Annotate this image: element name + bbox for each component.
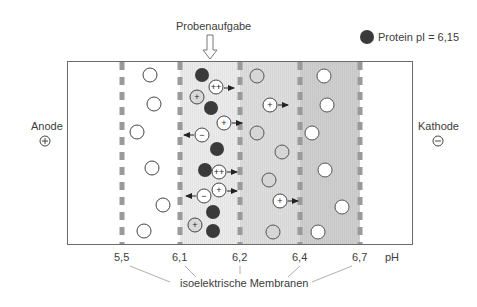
sample-application-arrow-icon <box>203 35 217 59</box>
svg-text:++: ++ <box>211 82 222 92</box>
svg-text:−: − <box>199 130 204 140</box>
membrane-caption: isoelektrische Membranen <box>180 277 308 289</box>
anode-plus-icon <box>40 136 50 146</box>
svg-text:−: − <box>201 191 206 201</box>
svg-text:+: + <box>192 220 197 230</box>
ph-tick-6.2: 6,2 <box>232 251 247 263</box>
sample-application-label: Probenaufgabe <box>176 20 251 32</box>
anode-label: Anode <box>31 120 63 132</box>
svg-text:+: + <box>277 196 282 206</box>
chamber-ph-5.5-6.1 <box>122 61 180 245</box>
ph-tick-6.4: 6,4 <box>292 251 307 263</box>
svg-text:+: + <box>221 118 226 128</box>
cathode-label: Kathode <box>418 120 459 132</box>
svg-text:+: + <box>267 100 272 110</box>
ph-unit-label: pH <box>385 251 399 263</box>
ph-tick-5.5: 5,5 <box>114 251 129 263</box>
svg-text:++: ++ <box>214 167 225 177</box>
svg-text:+: + <box>216 185 221 195</box>
ph-tick-6.1: 6,1 <box>172 251 187 263</box>
cathode-minus-icon <box>433 136 443 146</box>
legend-protein-label: Protein pI = 6,15 <box>378 31 459 43</box>
svg-text:+: + <box>194 92 199 102</box>
legend-protein-dot-icon <box>360 30 374 44</box>
ph-tick-6.7: 6,7 <box>352 251 367 263</box>
